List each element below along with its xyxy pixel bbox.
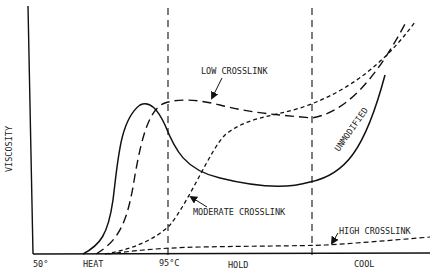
- series-high-crosslink: [108, 237, 430, 254]
- viscosity-chart: LOW CROSSLINK UNMODIFIED MODERATE CROSSL…: [0, 0, 433, 273]
- series-moderate-crosslink: [105, 22, 415, 254]
- y-axis: [28, 6, 33, 254]
- x-tick-95c: 95°C: [159, 258, 179, 268]
- x-axis: [33, 253, 430, 254]
- y-axis-label: VISCOSITY: [4, 126, 14, 172]
- label-moderate-crosslink: MODERATE CROSSLINK: [193, 207, 286, 217]
- label-unmodified: UNMODIFIED: [332, 105, 370, 153]
- x-tick-heat: HEAT: [83, 259, 103, 269]
- x-tick-hold: HOLD: [228, 260, 248, 270]
- arrow-moderate-crosslink: [191, 197, 207, 207]
- arrow-high-crosslink: [332, 233, 338, 243]
- series-low-crosslink: [96, 24, 405, 254]
- x-tick-cool: COOL: [354, 259, 374, 269]
- label-low-crosslink: LOW CROSSLINK: [201, 66, 268, 76]
- arrow-low-crosslink: [212, 78, 222, 98]
- label-high-crosslink: HIGH CROSSLINK: [339, 226, 412, 236]
- x-tick-50: 50°: [33, 259, 48, 269]
